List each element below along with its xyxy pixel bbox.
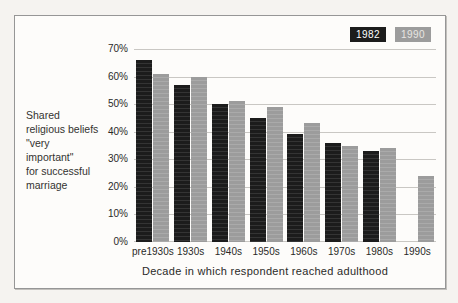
x-axis-title: Decade in which respondent reached adult… — [110, 265, 420, 277]
legend-item-1990: 1990 — [395, 27, 431, 42]
y-axis-caption: Shared religious beliefs "very important… — [26, 108, 134, 192]
y-tick-label-30%: 30% — [74, 153, 128, 165]
y-tick-label-0%: 0% — [74, 236, 128, 248]
bar-1982-1960s — [287, 134, 303, 242]
y-tick-label-70%: 70% — [74, 43, 128, 55]
gridline-60% — [134, 77, 436, 78]
legend-label-1982: 1982 — [356, 29, 380, 40]
y-tick-label-10%: 10% — [74, 208, 128, 220]
bar-1982-pre1930s — [136, 60, 152, 242]
bar-1982-1930s — [174, 85, 190, 242]
bar-1982-1970s — [325, 143, 341, 242]
x-tick-label-1990s: 1990s — [387, 246, 447, 257]
legend-item-1982: 1982 — [350, 27, 386, 42]
bar-1990-1990s — [418, 176, 434, 242]
caption-line: "very — [26, 136, 134, 150]
bar-1982-1950s — [250, 118, 266, 242]
screen: 1982 1990 Shared religious beliefs "very… — [0, 0, 458, 303]
bar-1990-pre1930s — [153, 74, 169, 242]
bar-1990-1980s — [380, 148, 396, 242]
y-tick-label-20%: 20% — [74, 181, 128, 193]
bar-1982-1980s — [363, 151, 379, 242]
caption-line: for successful — [26, 164, 134, 178]
gridline-70% — [134, 49, 436, 50]
bar-1990-1960s — [304, 123, 320, 242]
bar-1990-1970s — [342, 146, 358, 243]
y-tick-label-60%: 60% — [74, 71, 128, 83]
bar-1990-1930s — [191, 77, 207, 242]
y-tick-label-40%: 40% — [74, 126, 128, 138]
bar-1982-1940s — [212, 104, 228, 242]
plot-area: 0%10%20%30%40%50%60%70%pre1930s1930s1940… — [134, 49, 436, 242]
y-tick-label-50%: 50% — [74, 98, 128, 110]
bar-1990-1940s — [229, 101, 245, 242]
figure-frame: 1982 1990 Shared religious beliefs "very… — [14, 15, 446, 289]
bar-1990-1950s — [267, 107, 283, 242]
legend-label-1990: 1990 — [401, 29, 425, 40]
legend: 1982 1990 — [350, 27, 431, 42]
